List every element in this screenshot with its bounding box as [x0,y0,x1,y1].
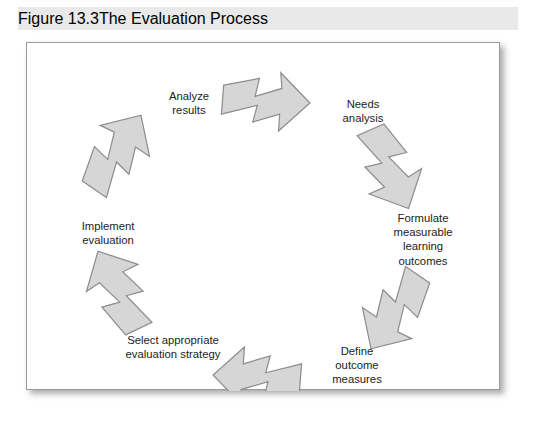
cycle-label-define-measures: Define outcome measures [332,344,382,387]
bent-arrow-icon [342,116,435,221]
arrow-to-analyze-results [71,100,166,206]
cycle-label-implement-evaluation: Implement evaluation [82,219,135,247]
bent-arrow-icon [221,73,309,131]
figure-title-label: The Evaluation Process [99,10,268,28]
arrow-to-needs-analysis [221,73,309,131]
cycle-label-analyze-results: Analyze results [169,89,209,117]
bent-arrow-icon [213,347,301,391]
bent-arrow-icon [72,237,167,343]
bent-arrow-icon [71,100,166,206]
arrow-to-implement-evaluation [72,237,167,343]
arrow-to-select-strategy [213,347,301,391]
figure-caption-banner: Figure 13.3 The Evaluation Process [18,7,518,30]
cycle-label-needs-analysis: Needs analysis [343,97,384,125]
cycle-label-formulate-outcomes: Formulate measurable learning outcomes [385,211,461,268]
figure-number-label: Figure 13.3 [18,10,99,28]
cycle-label-select-strategy: Select appropriate evaluation strategy [126,333,221,361]
arrow-to-formulate-outcomes [342,116,435,221]
figure-panel: Needs analysis Formulate measurable lear… [26,42,500,390]
